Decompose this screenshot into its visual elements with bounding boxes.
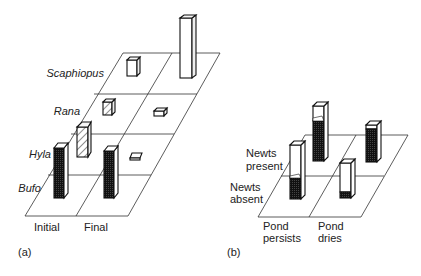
row-label-newts-absent-1: Newts: [230, 181, 261, 193]
col-label-pond-dries-1: Pond: [318, 220, 344, 232]
panel-a: Scaphiopus Rana Hyla Bufo Initial Final …: [18, 15, 220, 258]
figure-canvas: Scaphiopus Rana Hyla Bufo Initial Final …: [0, 0, 421, 276]
panel-tag-a: (a): [18, 246, 31, 258]
bar-initial-rana: [77, 122, 91, 157]
bar-dries-absent: [340, 159, 355, 198]
bar-final-hyla-flat: [130, 153, 142, 160]
bar-dries-present: [366, 121, 381, 162]
row-label-newts-present-1: Newts: [246, 147, 277, 159]
col-label-final: Final: [84, 221, 108, 233]
bar-final-hyla: [104, 146, 118, 198]
col-label-initial: Initial: [34, 221, 60, 233]
panel-tag-b: (b): [227, 246, 240, 258]
row-label-scaphiopus: Scaphiopus: [47, 67, 105, 79]
row-label-hyla: Hyla: [29, 148, 51, 160]
col-label-pond-dries-2: dries: [318, 232, 342, 244]
bar-persists-absent: [290, 141, 305, 199]
panel-b: Newts present Newts absent Pond persists…: [227, 102, 408, 258]
row-label-newts-present-2: present: [246, 160, 283, 172]
row-label-newts-absent-2: absent: [230, 193, 263, 205]
col-label-pond-persists-1: Pond: [263, 220, 289, 232]
bar-final-scaphiopus: [180, 15, 196, 78]
bar-persists-present: [313, 102, 328, 161]
bar-initial-scaphiopus: [127, 57, 140, 76]
bar-final-rana: [154, 108, 167, 116]
row-label-bufo: Bufo: [18, 182, 41, 194]
col-label-pond-persists-2: persists: [263, 232, 301, 244]
panel-b-grid: [258, 135, 408, 217]
bar-initial-hyla: [54, 143, 68, 198]
row-label-rana: Rana: [54, 105, 80, 117]
bar-initial-rana-small: [103, 99, 115, 115]
